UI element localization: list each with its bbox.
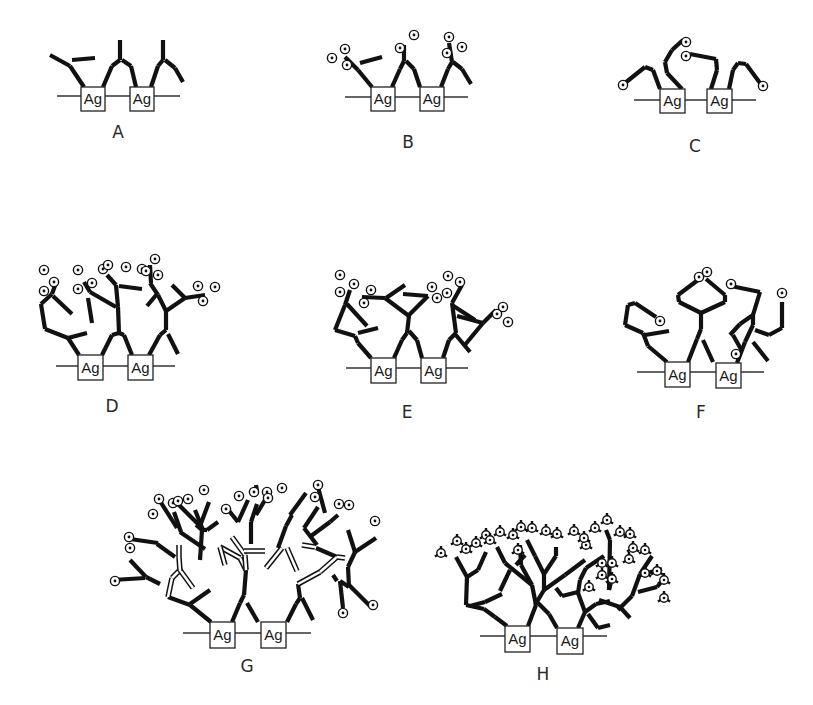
chain-segment <box>348 584 370 606</box>
branched-terminal-residue-icon <box>578 531 590 542</box>
chain-segment <box>478 552 486 570</box>
antigen-box: Ag <box>660 89 685 113</box>
chain-segment <box>287 604 296 622</box>
chain-segment <box>316 548 337 557</box>
chain-segment <box>578 612 585 628</box>
terminal-residue-icon <box>366 285 375 294</box>
chain-segment <box>88 298 92 323</box>
panel-label: A <box>112 122 124 142</box>
chain-segment <box>441 69 448 87</box>
terminal-residue-icon <box>427 282 436 291</box>
chain-segment <box>409 331 417 340</box>
chain-segment <box>688 339 697 362</box>
terminal-residue-icon <box>154 494 163 503</box>
chain-segment <box>497 547 505 563</box>
chain-segment <box>625 305 628 325</box>
terminal-residue-icon <box>263 493 272 502</box>
chain-segment <box>151 66 158 87</box>
chain-segment <box>645 331 669 335</box>
antigen-box: Ag <box>421 358 446 383</box>
chain-segment <box>50 55 70 66</box>
chain-segment <box>207 522 218 530</box>
branched-terminal-residue-icon <box>601 513 613 524</box>
terminal-residue-icon <box>310 492 319 501</box>
terminal-residue-icon <box>193 281 202 290</box>
terminal-residue-icon <box>457 42 466 51</box>
antigen-box: Ag <box>81 87 105 111</box>
terminal-residue-icon <box>442 48 451 57</box>
chain-segment <box>701 302 725 313</box>
chain-segment <box>107 275 116 285</box>
chain-segment <box>538 603 549 614</box>
chain-segment <box>130 560 146 577</box>
chain-segment <box>648 346 667 362</box>
terminal-residue-icon <box>342 60 351 69</box>
chain-segment <box>158 60 163 66</box>
antigen-label: Ag <box>374 362 392 379</box>
chain-segment <box>330 515 338 522</box>
terminal-residue-icon <box>39 265 48 274</box>
chain-segment <box>755 330 769 335</box>
chain-segment <box>400 61 404 69</box>
terminal-residue-icon <box>103 260 112 269</box>
branched-terminal-residue-icon <box>589 521 601 532</box>
terminal-residue-icon <box>198 296 207 305</box>
branched-terminal-residue-icon <box>512 543 524 554</box>
chain-segment <box>598 625 610 628</box>
chain-segment <box>200 530 202 560</box>
branched-terminal-residue-icon <box>596 568 608 579</box>
terminal-residue-icon <box>277 483 286 492</box>
antigen-box: Ag <box>371 358 396 383</box>
chain-segment <box>500 570 510 591</box>
panel-label: G <box>240 656 253 676</box>
chain-segment <box>311 522 330 536</box>
chain-segment <box>753 292 760 315</box>
chain-segment <box>304 507 318 528</box>
terminal-residue-icon <box>249 487 258 496</box>
chain-segment <box>535 556 544 574</box>
panel-f: AgAgF <box>625 267 787 422</box>
chain-segment <box>302 598 313 620</box>
chain-segment <box>495 617 507 626</box>
chain-segment <box>232 603 240 622</box>
terminal-residue-icon <box>340 44 349 53</box>
chain-segment <box>716 59 717 70</box>
chain-segment <box>358 328 378 333</box>
terminal-residue-icon <box>726 279 735 288</box>
terminal-residue-icon <box>368 600 377 609</box>
chain-segment <box>102 335 112 355</box>
branched-terminal-residue-icon <box>651 564 663 575</box>
chain-segment <box>625 67 645 83</box>
terminal-residue-icon <box>702 267 711 276</box>
chain-segment <box>667 73 682 89</box>
panel-g: AgAgG <box>110 480 379 676</box>
chain-segment <box>733 335 742 351</box>
chain-segment <box>403 294 428 296</box>
terminal-residue-icon <box>349 279 358 288</box>
terminal-residue-icon <box>327 53 336 62</box>
chain-segment <box>41 304 45 329</box>
chain-segment <box>165 60 175 68</box>
chain-segment <box>562 592 578 596</box>
chain-segment <box>149 335 160 355</box>
chain-segment <box>711 70 717 89</box>
branched-terminal-residue-icon <box>515 520 527 531</box>
antigen-label: Ag <box>131 359 149 376</box>
chain-segment <box>335 305 345 330</box>
panel-label: E <box>402 402 413 422</box>
terminal-residue-icon <box>442 288 451 297</box>
hollow-chain-segment-inner <box>298 572 320 584</box>
terminal-residue-icon <box>110 576 119 585</box>
chain-segment <box>146 577 160 584</box>
chain-segment <box>244 570 246 595</box>
chain-segment <box>406 61 414 69</box>
branched-terminal-residue-icon <box>551 527 563 538</box>
antigen-label: Ag <box>424 362 442 379</box>
chain-segment <box>635 303 656 317</box>
branched-terminal-residue-icon <box>623 552 635 563</box>
terminal-residue-icon <box>444 32 453 41</box>
antigen-label: Ag <box>508 630 526 647</box>
hollow-chain-segment-inner <box>245 555 246 570</box>
antigen-label: Ag <box>719 367 737 384</box>
chain-segment <box>68 333 87 338</box>
